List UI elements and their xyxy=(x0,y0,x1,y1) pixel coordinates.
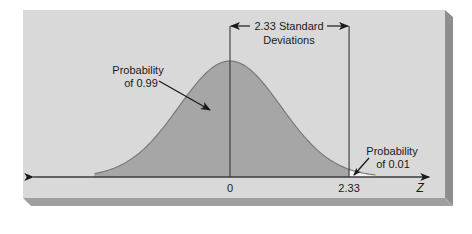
axis-label-z: Z xyxy=(416,181,425,195)
tick-label-2.33: 2.33 xyxy=(338,182,359,194)
panel-shadow-right xyxy=(445,10,453,206)
span-label-line1: 2.33 Standard xyxy=(254,20,323,32)
normal-distribution-figure: 0 2.33 Z 2.33 Standard Deviations Probab… xyxy=(0,0,472,234)
right-probability-label-line1: Probability xyxy=(366,145,418,157)
left-probability-label-line1: Probability xyxy=(112,64,164,76)
span-label-line2: Deviations xyxy=(263,34,315,46)
left-probability-label-line2: of 0.99 xyxy=(124,77,158,89)
right-probability-label-line2: of 0.01 xyxy=(376,158,410,170)
tick-label-0: 0 xyxy=(227,182,233,194)
panel-shadow-bottom xyxy=(23,198,453,206)
